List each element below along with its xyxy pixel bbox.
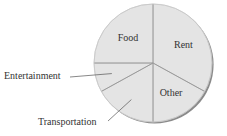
slice-label-other: Other	[160, 87, 183, 98]
slice-label-entertainment: Entertainment	[4, 70, 61, 81]
slice-label-transportation: Transportation	[38, 116, 97, 127]
slice-label-rent: Rent	[174, 39, 193, 50]
slice-label-food: Food	[118, 32, 139, 43]
pie-chart: RentOtherTransportationEntertainmentFood	[0, 0, 227, 136]
